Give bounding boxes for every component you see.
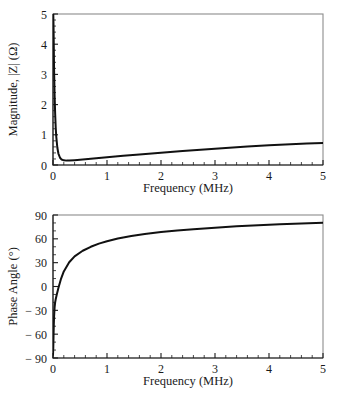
y-axis-title: Magnitude, |Z| (Ω) — [6, 43, 20, 137]
caption-remnant-text — [0, 396, 348, 409]
axis-lines — [53, 14, 323, 165]
y-tick-label: 0 — [41, 159, 47, 173]
x-tick-label: 0 — [50, 169, 56, 183]
y-tick-label: 0 — [41, 280, 47, 294]
data-curve-magnitude — [53, 14, 323, 161]
x-tick-label: 5 — [320, 169, 326, 183]
magnitude-plot: 012345012345Frequency (MHz)Magnitude, |Z… — [0, 0, 348, 200]
phase-plot: 012345− 90− 60− 300306090Frequency (MHz)… — [0, 200, 348, 390]
impedance-bode-figure: 012345012345Frequency (MHz)Magnitude, |Z… — [0, 0, 348, 409]
x-tick-label: 4 — [266, 169, 272, 183]
y-tick-label: 2 — [41, 98, 47, 112]
magnitude-chart-panel: 012345012345Frequency (MHz)Magnitude, |Z… — [0, 0, 348, 200]
x-tick-label: 0 — [50, 362, 56, 376]
y-tick-label: 90 — [35, 209, 47, 223]
plot-frame — [53, 215, 323, 358]
y-tick-label: 60 — [35, 232, 47, 246]
phase-chart-panel: 012345− 90− 60− 300306090Frequency (MHz)… — [0, 200, 348, 390]
plot-frame — [53, 14, 323, 165]
axis-lines — [53, 215, 323, 358]
data-curve-phase — [53, 223, 323, 355]
y-tick-label: − 30 — [25, 304, 47, 318]
y-axis-title: Phase Angle (°) — [6, 247, 20, 326]
y-tick-label: 4 — [41, 38, 47, 52]
y-tick-label: − 60 — [25, 328, 47, 342]
x-tick-label: 1 — [104, 169, 110, 183]
x-axis-title: Frequency (MHz) — [143, 181, 233, 195]
y-tick-label: 3 — [41, 68, 47, 82]
x-axis-title: Frequency (MHz) — [143, 374, 233, 388]
y-tick-label: − 90 — [25, 352, 47, 366]
y-tick-label: 30 — [35, 256, 47, 270]
x-tick-label: 4 — [266, 362, 272, 376]
x-tick-label: 5 — [320, 362, 326, 376]
y-tick-label: 5 — [41, 8, 47, 22]
x-tick-label: 1 — [104, 362, 110, 376]
y-tick-label: 1 — [41, 128, 47, 142]
